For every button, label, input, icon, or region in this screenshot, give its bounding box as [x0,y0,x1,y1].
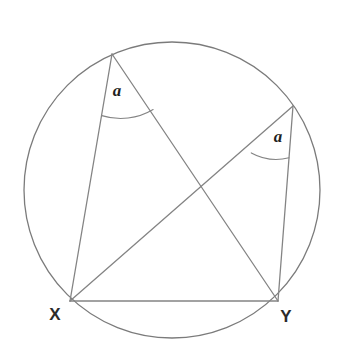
geometry-diagram: a a X Y [0,0,339,354]
angle-arc-right-vertex [251,153,289,159]
segment-top-to-y [112,54,278,301]
vertex-label-x: X [49,305,61,324]
angle-arc-top-vertex [102,110,153,119]
angle-label-top: a [113,81,122,100]
angle-label-right: a [274,127,283,146]
segment-top-to-x [70,54,112,301]
geometry-canvas: a a X Y [0,0,339,354]
circumscribed-circle [24,42,320,338]
segment-right-to-x [70,106,293,301]
vertex-label-y: Y [280,307,292,326]
